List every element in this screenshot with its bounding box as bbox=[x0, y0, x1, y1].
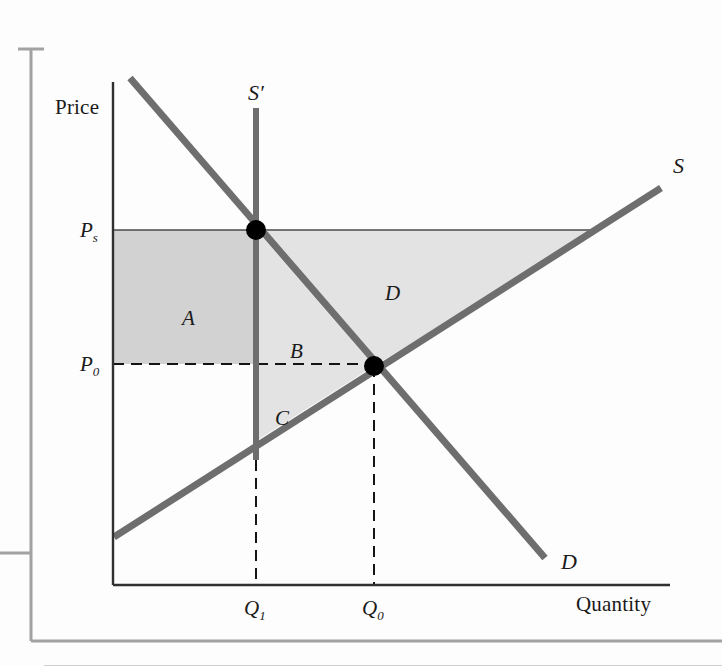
region-label-d: D bbox=[385, 281, 400, 306]
curve-label-d: D bbox=[561, 549, 577, 575]
y-axis-label: Price bbox=[55, 95, 99, 120]
price-tick-P0-base: P bbox=[80, 352, 93, 376]
quantity-tick-Q0-base: Q bbox=[362, 596, 377, 620]
supply-demand-figure bbox=[0, 0, 722, 666]
restricted-equilibrium-dot bbox=[246, 220, 266, 240]
price-tick-Ps-sub: s bbox=[93, 230, 98, 245]
price-tick-Ps-base: P bbox=[80, 218, 93, 242]
curve-label-s: S bbox=[673, 153, 684, 179]
region-A-shape bbox=[113, 230, 256, 364]
quantity-tick-Q0: Q0 bbox=[362, 596, 384, 624]
quantity-tick-Q0-sub: 0 bbox=[377, 608, 384, 623]
free-market-equilibrium-dot bbox=[364, 356, 384, 376]
price-tick-P0: P0 bbox=[80, 352, 99, 380]
quantity-tick-Q1-base: Q bbox=[244, 596, 259, 620]
region-label-a: A bbox=[182, 306, 195, 331]
price-tick-Ps: Ps bbox=[80, 218, 98, 246]
figure-page: Price Quantity Ps P0 Q1 Q0 S′ S D A B C … bbox=[0, 0, 722, 666]
curve-label-s-prime: S′ bbox=[248, 80, 264, 106]
x-axis-label: Quantity bbox=[576, 592, 651, 617]
quantity-tick-Q1-sub: 1 bbox=[259, 608, 266, 623]
region-label-b: B bbox=[290, 339, 303, 364]
region-C-shape bbox=[256, 366, 374, 441]
quantity-tick-Q1: Q1 bbox=[244, 596, 266, 624]
region-label-c: C bbox=[275, 406, 289, 431]
price-tick-P0-sub: 0 bbox=[93, 364, 100, 379]
